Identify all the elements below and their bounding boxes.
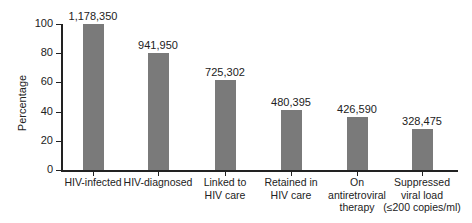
bar-value-label: 725,302 xyxy=(190,66,260,78)
bar-value-label: 480,395 xyxy=(256,96,326,108)
y-tick-label: 60 xyxy=(31,75,53,87)
x-axis xyxy=(61,170,458,172)
y-tick-label: 0 xyxy=(31,163,53,175)
bar xyxy=(281,110,302,170)
y-tick-mark xyxy=(56,24,61,25)
x-category-label: Suppressedviral load(≤200 copies/ml) xyxy=(382,176,462,214)
bar-value-label: 426,590 xyxy=(322,103,392,115)
y-tick-mark xyxy=(56,170,61,171)
y-tick-mark xyxy=(56,53,61,54)
bar xyxy=(412,129,433,170)
bar xyxy=(215,80,236,170)
y-tick-label: 20 xyxy=(31,134,53,146)
y-tick-label: 40 xyxy=(31,105,53,117)
y-tick-label: 80 xyxy=(31,46,53,58)
bar xyxy=(347,117,368,170)
y-tick-mark xyxy=(56,141,61,142)
y-tick-mark xyxy=(56,112,61,113)
y-axis xyxy=(61,24,63,171)
y-tick-mark xyxy=(56,82,61,83)
y-tick-label: 100 xyxy=(31,17,53,29)
y-axis-label: Percentage xyxy=(16,63,28,143)
bar xyxy=(83,24,104,170)
bar-value-label: 1,178,350 xyxy=(58,10,128,22)
bar xyxy=(148,53,169,170)
bar-value-label: 328,475 xyxy=(387,115,457,127)
hiv-care-cascade-chart: Percentage 020406080100 1,178,350HIV-inf… xyxy=(0,0,472,223)
bar-value-label: 941,950 xyxy=(123,39,193,51)
